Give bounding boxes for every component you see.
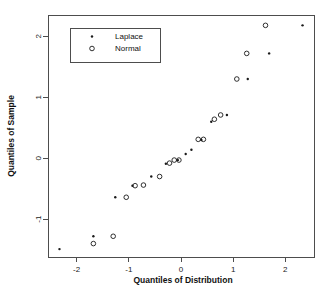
x-tick-label: -1 xyxy=(125,265,133,274)
data-point-normal xyxy=(244,51,249,56)
data-point-normal xyxy=(172,158,177,163)
data-point-normal xyxy=(235,77,240,82)
data-point-laplace xyxy=(301,24,303,26)
data-point-laplace xyxy=(226,114,228,116)
data-point-laplace xyxy=(92,235,94,237)
x-tick-label: 0 xyxy=(179,265,184,274)
data-point-normal xyxy=(167,161,172,166)
data-point-normal xyxy=(212,117,217,122)
data-point-laplace xyxy=(190,149,192,151)
data-point-laplace xyxy=(114,196,116,198)
data-point-normal xyxy=(124,195,129,200)
data-point-laplace xyxy=(58,248,60,250)
legend-marker-laplace xyxy=(91,35,93,37)
data-point-laplace xyxy=(247,78,249,80)
legend-label-laplace: Laplace xyxy=(115,32,144,41)
data-point-normal xyxy=(141,183,146,188)
y-tick-label: -1 xyxy=(34,215,43,223)
data-point-normal xyxy=(91,241,96,246)
data-point-laplace xyxy=(150,175,152,177)
data-point-normal xyxy=(218,113,223,118)
y-axis-label: Quantiles of Sample xyxy=(6,95,16,177)
y-tick-label: 2 xyxy=(34,34,43,39)
data-point-laplace xyxy=(268,52,270,54)
qq-plot-container: -2-1012 -1012 LaplaceNormal Quantiles of… xyxy=(0,0,330,290)
y-tick-label: 0 xyxy=(34,155,43,160)
data-point-laplace xyxy=(184,153,186,155)
x-tick-label: 1 xyxy=(231,265,236,274)
chart-legend: LaplaceNormal xyxy=(70,28,160,62)
legend-label-normal: Normal xyxy=(115,44,141,53)
data-point-laplace xyxy=(210,120,212,122)
y-axis-ticks: -1012 xyxy=(34,34,48,223)
data-point-normal xyxy=(196,137,201,142)
data-point-normal xyxy=(263,23,268,28)
x-axis-ticks: -2-1012 xyxy=(73,257,288,274)
x-tick-label: 2 xyxy=(283,265,288,274)
x-tick-label: -2 xyxy=(73,265,81,274)
data-point-normal xyxy=(111,234,116,239)
x-axis-label: Quantiles of Distribution xyxy=(133,275,232,285)
y-tick-label: 1 xyxy=(34,95,43,100)
data-point-laplace xyxy=(165,163,167,165)
qq-plot-svg: -2-1012 -1012 LaplaceNormal Quantiles of… xyxy=(0,0,330,290)
data-point-normal xyxy=(157,174,162,179)
